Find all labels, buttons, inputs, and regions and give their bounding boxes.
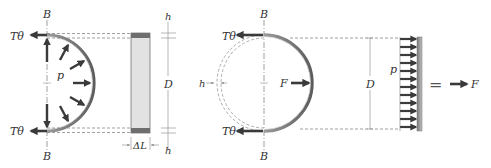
label-t-theta-bottom-left: Tθ xyxy=(10,125,24,138)
label-d-left: D xyxy=(163,78,173,91)
equals-sign: = xyxy=(429,75,442,94)
right-panel: D p = F xyxy=(364,37,479,131)
label-h-bottom: h xyxy=(165,145,171,156)
label-h-top: h xyxy=(165,11,171,22)
pressure-vessel-diagram: B B Tθ Tθ p xyxy=(0,0,491,168)
label-b-top-left: B xyxy=(42,8,51,21)
wall-cap-bottom xyxy=(131,128,150,133)
projected-plate xyxy=(417,37,422,131)
label-b-top-middle: B xyxy=(259,8,268,21)
wall-cap-top xyxy=(131,33,150,38)
label-p-left: p xyxy=(57,69,64,82)
label-t-theta-top-middle: Tθ xyxy=(222,30,236,43)
pressure-arrows-right xyxy=(400,39,416,127)
label-b-bottom-middle: B xyxy=(259,150,268,163)
label-t-theta-top-left: Tθ xyxy=(10,30,24,43)
label-p-right: p xyxy=(390,63,397,76)
label-h-middle: h xyxy=(199,78,205,89)
left-panel: B B Tθ Tθ p xyxy=(10,8,176,163)
label-b-bottom-left: B xyxy=(42,150,51,163)
wall-section xyxy=(131,33,150,133)
label-delta-l: ΔL xyxy=(132,140,147,151)
label-t-theta-bottom-middle: Tθ xyxy=(222,125,236,138)
label-d-right: D xyxy=(365,78,375,91)
label-f-middle: F xyxy=(279,77,288,90)
label-f-right: F xyxy=(470,78,479,91)
